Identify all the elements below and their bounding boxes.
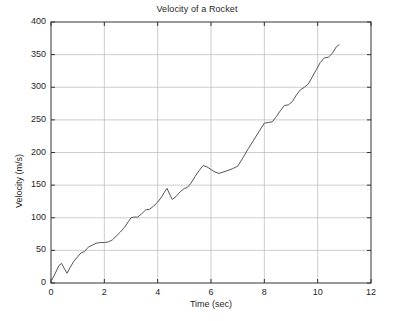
x-tick-label: 10	[298, 287, 338, 297]
y-tick-label: 250	[31, 114, 46, 124]
x-tick-label: 4	[138, 287, 178, 297]
plot-canvas	[0, 0, 394, 321]
y-tick-label: 300	[31, 81, 46, 91]
x-tick-label: 2	[84, 287, 124, 297]
y-tick-label: 50	[36, 244, 46, 254]
x-tick-label: 12	[351, 287, 391, 297]
y-tick-label: 350	[31, 49, 46, 59]
y-tick-label: 200	[31, 147, 46, 157]
y-tick-label: 100	[31, 212, 46, 222]
y-tick-label: 400	[31, 16, 46, 26]
y-tick-label: 0	[41, 277, 46, 287]
x-tick-label: 8	[244, 287, 284, 297]
chart-figure: Velocity of a Rocket 0501001502002503003…	[0, 0, 394, 321]
x-axis-label: Time (sec)	[51, 299, 371, 309]
velocity-line	[51, 45, 339, 282]
y-axis-label: Velocity (m/s)	[14, 154, 24, 208]
y-tick-label: 150	[31, 179, 46, 189]
x-tick-label: 6	[191, 287, 231, 297]
grid-lines	[51, 22, 371, 283]
x-tick-label: 0	[31, 287, 71, 297]
